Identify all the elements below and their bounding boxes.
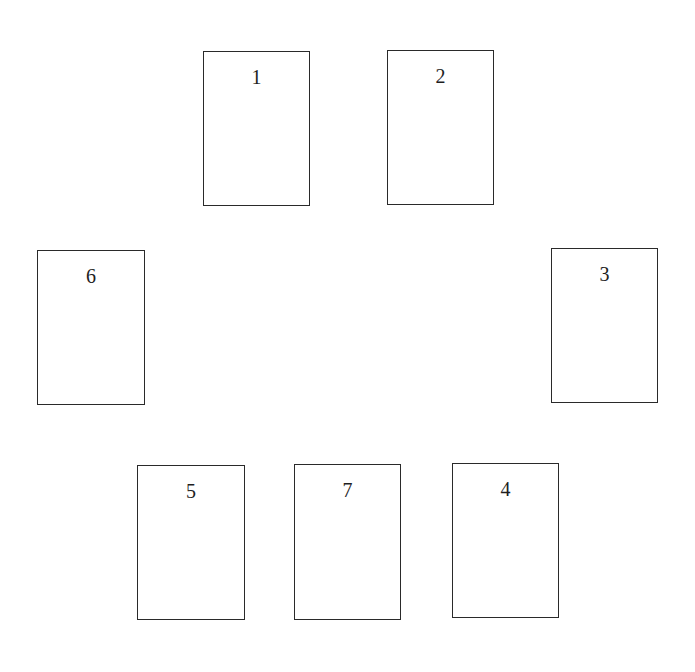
card-position-4: 4	[452, 463, 559, 618]
card-number-label: 7	[295, 479, 400, 501]
card-number-label: 3	[552, 263, 657, 285]
card-spread: 1 2 3 4 5 6 7	[0, 0, 695, 672]
card-position-2: 2	[387, 50, 494, 205]
card-position-3: 3	[551, 248, 658, 403]
card-number-label: 6	[38, 265, 144, 287]
card-number-label: 2	[388, 65, 493, 87]
card-position-5: 5	[137, 465, 245, 620]
card-position-6: 6	[37, 250, 145, 405]
card-position-1: 1	[203, 51, 310, 206]
card-number-label: 4	[453, 478, 558, 500]
card-position-7: 7	[294, 464, 401, 620]
card-number-label: 1	[204, 66, 309, 88]
card-number-label: 5	[138, 480, 244, 502]
